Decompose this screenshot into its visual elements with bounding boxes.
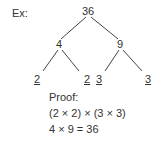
- proof-title: Proof:: [49, 92, 78, 103]
- tree-root-node: 36: [82, 6, 94, 17]
- edge-9-3b: [123, 50, 142, 71]
- edge-36-9: [91, 17, 118, 39]
- tree-edges: [0, 0, 162, 142]
- example-label: Ex:: [12, 8, 28, 19]
- proof-line-2: 4 × 9 = 36: [49, 124, 99, 135]
- edge-4-2b: [62, 50, 79, 71]
- edge-9-3a: [105, 50, 119, 71]
- tree-leaf: 2: [34, 74, 40, 85]
- edge-36-4: [61, 17, 86, 39]
- tree-node-left: 4: [56, 39, 62, 50]
- tree-leaf: 3: [145, 74, 151, 85]
- tree-leaf: 3: [96, 74, 102, 85]
- tree-node-right: 9: [117, 39, 123, 50]
- tree-leaf: 2: [84, 74, 90, 85]
- proof-line-1: (2 × 2) × (3 × 3): [49, 108, 126, 119]
- edge-4-2a: [43, 50, 58, 71]
